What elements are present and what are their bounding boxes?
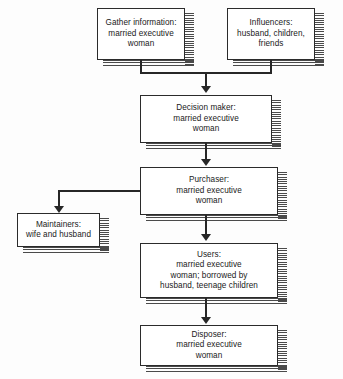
purchaser-shadow-right [278, 172, 287, 221]
connector-purchaser-to-maintainers-horizontal [58, 190, 142, 192]
node-gather-information-label: Gather information: married executive wo… [102, 18, 179, 50]
node-purchaser[interactable]: Purchaser: married executive woman [140, 167, 278, 215]
node-disposer[interactable]: Disposer: married executive woman [140, 325, 278, 366]
users-shadow-bottom [146, 298, 287, 304]
node-decision-maker-label: Decision maker: married executive woman [170, 103, 241, 135]
node-maintainers[interactable]: Maintainers: wife and husband [17, 213, 100, 247]
node-maintainers-label: Maintainers: wife and husband [23, 220, 94, 241]
disposer-shadow-bottom [146, 366, 287, 372]
node-disposer-label: Disposer: married executive woman [173, 330, 244, 362]
gather-information-shadow-bottom [103, 60, 194, 66]
connector-purchaser-to-users [205, 215, 207, 235]
node-users[interactable]: Users: married executive woman; borrowed… [140, 243, 278, 298]
flowchart-canvas: Gather information: married executive wo… [0, 0, 343, 379]
node-purchaser-label: Purchaser: married executive woman [173, 175, 244, 207]
influencers-shadow-right [315, 13, 324, 66]
arrowhead-to-maintainers [54, 206, 64, 213]
purchaser-shadow-bottom [146, 215, 287, 221]
arrowhead-to-users [201, 234, 211, 241]
users-shadow-right [278, 248, 287, 304]
decision-maker-shadow-right [272, 100, 281, 149]
gather-information-shadow-right [185, 13, 194, 66]
node-users-label: Users: married executive woman; borrowed… [157, 250, 261, 292]
arrowhead-to-purchaser [201, 159, 211, 166]
node-decision-maker[interactable]: Decision maker: married executive woman [140, 95, 272, 143]
connector-users-to-disposer [205, 298, 207, 318]
node-influencers[interactable]: Influencers: husband, children, friends [227, 8, 315, 60]
node-gather-information[interactable]: Gather information: married executive wo… [97, 8, 185, 60]
influencers-shadow-bottom [233, 60, 324, 66]
maintainers-shadow-bottom [23, 247, 109, 253]
decision-maker-shadow-bottom [146, 143, 281, 149]
arrowhead-to-disposer [201, 317, 211, 324]
arrowhead-to-decision-maker [201, 86, 211, 93]
node-influencers-label: Influencers: husband, children, friends [234, 18, 308, 50]
